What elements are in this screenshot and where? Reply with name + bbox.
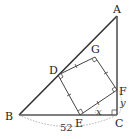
geometry-figure: A B C D E F G 52 x y: [0, 0, 135, 139]
label-b: B: [5, 110, 13, 123]
label-d: D: [49, 64, 58, 77]
label-g: G: [91, 43, 100, 56]
label-e: E: [75, 117, 83, 130]
label-c: C: [115, 117, 123, 130]
label-angle-x: x: [96, 106, 102, 117]
label-length-y: y: [119, 97, 126, 108]
label-a: A: [112, 3, 122, 16]
label-bc-length: 52: [60, 122, 73, 133]
